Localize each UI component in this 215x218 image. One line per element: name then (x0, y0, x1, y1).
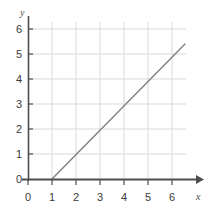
x-tick-label-2: 2 (73, 192, 79, 203)
x-tick-label-3: 3 (97, 192, 103, 203)
y-tick-label-5: 5 (6, 49, 22, 60)
x-tick-label-1: 1 (49, 192, 55, 203)
chart-canvas (0, 0, 215, 218)
x-tick-label-6: 6 (169, 192, 175, 203)
y-tick-label-0: 0 (6, 174, 22, 185)
y-tick-label-3: 3 (6, 99, 22, 110)
y-axis-label: y (20, 8, 24, 18)
x-axis (22, 175, 204, 185)
x-axis-label: x (196, 192, 200, 202)
y-tick-label-1: 1 (6, 149, 22, 160)
y-axis (28, 16, 33, 181)
line-chart: y x 6 5 4 3 2 1 0 0 1 2 3 4 5 6 (0, 0, 215, 218)
x-tick-label-5: 5 (145, 192, 151, 203)
y-tick-label-4: 4 (6, 74, 22, 85)
y-tick-label-2: 2 (6, 124, 22, 135)
data-line-series (52, 44, 185, 179)
vertical-gridlines (52, 22, 172, 180)
x-tick-label-0: 0 (25, 192, 31, 203)
y-tick-label-6: 6 (6, 24, 22, 35)
x-tick-label-4: 4 (121, 192, 127, 203)
